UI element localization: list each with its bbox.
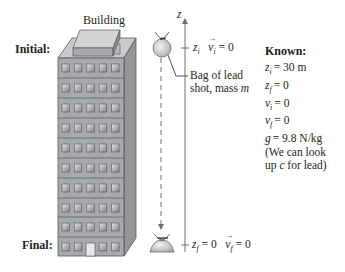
window <box>74 64 82 72</box>
window <box>112 184 120 192</box>
window <box>112 144 120 152</box>
known-note-line2: up c for lead) <box>265 159 327 173</box>
building-label: Building <box>83 13 125 28</box>
window <box>99 223 107 231</box>
window <box>99 124 107 132</box>
window <box>62 144 70 152</box>
window <box>99 184 107 192</box>
window <box>112 204 120 212</box>
window <box>87 223 95 231</box>
known-item: zi= 30 m <box>265 61 327 79</box>
window <box>62 64 70 72</box>
vector-v-initial: →v <box>208 41 213 53</box>
known-title: Known: <box>265 44 327 59</box>
window <box>87 124 95 132</box>
window <box>74 104 82 112</box>
window <box>112 104 120 112</box>
window <box>99 64 107 72</box>
bag-initial <box>153 32 171 57</box>
window <box>99 104 107 112</box>
final-label: Final: <box>22 238 53 253</box>
window <box>112 223 120 231</box>
window <box>112 64 120 72</box>
building <box>58 30 136 256</box>
known-note-line1: (We can look <box>265 146 327 160</box>
window <box>99 144 107 152</box>
building-door <box>86 243 95 256</box>
window <box>62 84 70 92</box>
window <box>62 243 70 251</box>
window <box>62 164 70 172</box>
known-item: vf= 0 <box>265 114 327 132</box>
z-axis-label: z <box>177 8 181 20</box>
window <box>62 104 70 112</box>
window <box>99 243 107 251</box>
initial-annotation: zi →vi = 0 <box>193 41 234 56</box>
window <box>74 184 82 192</box>
bag-label: Bag of lead shot, mass m <box>190 69 249 95</box>
final-annotation: zf = 0 →vf = 0 <box>192 238 251 253</box>
window <box>74 243 82 251</box>
window <box>99 204 107 212</box>
vector-v-final: →v <box>225 238 230 250</box>
window <box>74 204 82 212</box>
known-panel: Known: zi= 30 mzf= 0vi= 0vf= 0g= 9.8 N/k… <box>265 44 327 173</box>
fall-arrowhead <box>158 224 164 230</box>
window <box>99 164 107 172</box>
window <box>112 124 120 132</box>
window <box>112 243 120 251</box>
window <box>87 144 95 152</box>
window <box>74 84 82 92</box>
window <box>87 84 95 92</box>
bag-final <box>150 234 174 252</box>
window <box>87 164 95 172</box>
known-item: zf= 0 <box>265 79 327 97</box>
window <box>62 223 70 231</box>
initial-label: Initial: <box>15 42 50 57</box>
window <box>112 84 120 92</box>
window <box>99 84 107 92</box>
window <box>62 124 70 132</box>
window <box>62 184 70 192</box>
window <box>87 204 95 212</box>
window <box>87 64 95 72</box>
window <box>87 184 95 192</box>
window <box>74 223 82 231</box>
z-axis-arrowhead <box>182 18 188 24</box>
window <box>74 164 82 172</box>
known-item: vi= 0 <box>265 97 327 115</box>
window <box>62 204 70 212</box>
window <box>87 104 95 112</box>
window <box>74 124 82 132</box>
window <box>74 144 82 152</box>
window <box>112 164 120 172</box>
known-item: g= 9.8 N/kg <box>265 132 327 146</box>
